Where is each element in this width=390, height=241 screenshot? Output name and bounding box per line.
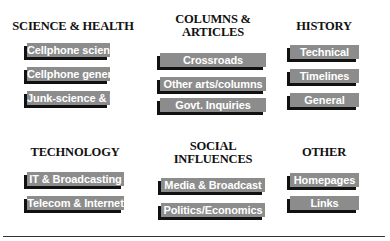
link-telecom-internet[interactable]: Telecom & Internet — [27, 196, 124, 210]
link-it-broadcasting[interactable]: IT & Broadcasting — [27, 172, 124, 186]
link-other-arts-columns[interactable]: Other arts/columns — [160, 77, 266, 91]
link-cellphone-science[interactable]: Cellphone science — [27, 43, 110, 57]
link-media-broadcast[interactable]: Media & Broadcast — [161, 178, 265, 192]
link-general[interactable]: General — [290, 93, 359, 107]
link-govt-inquiries[interactable]: Govt. Inquiries — [160, 98, 266, 112]
heading-line: ARTICLES — [150, 26, 276, 39]
link-timelines[interactable]: Timelines — [290, 69, 359, 83]
section-heading-other: OTHER — [284, 146, 364, 159]
link-homepages[interactable]: Homepages — [290, 173, 359, 187]
heading-line: INFLUENCES — [150, 153, 276, 166]
section-heading-technology: TECHNOLOGY — [20, 146, 130, 159]
link-links[interactable]: Links — [290, 196, 359, 210]
section-heading-social-influences: SOCIAL INFLUENCES — [150, 140, 276, 166]
section-heading-columns-articles: COLUMNS & ARTICLES — [150, 13, 276, 39]
link-politics-economics[interactable]: Politics/Economics — [161, 203, 265, 217]
bottom-divider — [3, 236, 385, 237]
link-technical[interactable]: Technical — [290, 45, 359, 59]
section-heading-history: HISTORY — [284, 20, 364, 33]
link-cellphone-general[interactable]: Cellphone general — [27, 67, 110, 81]
link-crossroads[interactable]: Crossroads — [160, 53, 266, 67]
link-junk-science-pr[interactable]: Junk-science & PR — [27, 91, 110, 105]
section-heading-science-health: SCIENCE & HEALTH — [5, 20, 141, 33]
